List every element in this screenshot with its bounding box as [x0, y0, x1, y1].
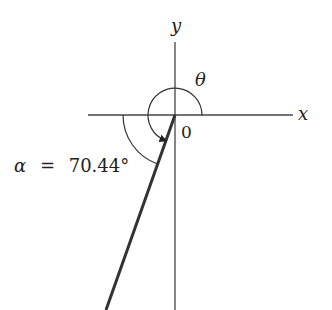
theta-label: θ — [195, 69, 206, 90]
alpha-label: α = 70.44° — [14, 155, 129, 176]
terminal-side — [106, 115, 175, 310]
alpha-equals: = — [40, 155, 55, 176]
alpha-value: 70.44° — [69, 155, 130, 176]
origin-label: 0 — [181, 122, 192, 142]
diagram-svg: y x 0 θ α = 70.44° — [0, 0, 332, 310]
alpha-symbol: α — [14, 155, 26, 176]
x-axis-label: x — [298, 103, 308, 124]
angle-diagram: y x 0 θ α = 70.44° — [0, 0, 332, 310]
y-axis-label: y — [170, 15, 182, 36]
